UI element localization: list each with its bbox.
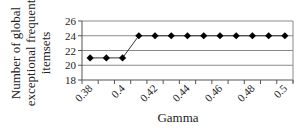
y-tick-label: 22: [65, 45, 76, 57]
y-tick-label: 24: [65, 30, 77, 42]
data-point-diamond: [135, 32, 142, 39]
y-tick-label: 26: [65, 15, 77, 27]
data-point-diamond: [184, 32, 191, 39]
y-axis-label-line: itemsets: [38, 32, 53, 75]
y-axis-label: Number of globalexceptional frequentitem…: [8, 0, 53, 106]
x-tick-label: 0.48: [235, 82, 257, 104]
x-tick-label: 0.5: [271, 82, 290, 101]
x-tick-label: 0.44: [170, 82, 192, 104]
line-chart: Number of globalexceptional frequentitem…: [0, 0, 308, 130]
data-point-diamond: [265, 32, 272, 39]
data-point-diamond: [216, 32, 223, 39]
y-axis-ticks: 1820222426: [65, 15, 82, 86]
gridlines: [82, 21, 293, 65]
x-axis-label: Gamma: [157, 110, 198, 125]
data-point-diamond: [249, 32, 256, 39]
y-axis-label-line: Number of global: [8, 6, 23, 99]
data-point-diamond: [103, 54, 110, 61]
data-point-diamond: [151, 32, 158, 39]
data-point-diamond: [119, 54, 126, 61]
x-tick-label: 0.42: [137, 82, 159, 104]
y-tick-label: 18: [65, 74, 77, 86]
data-point-diamond: [281, 32, 288, 39]
y-tick-label: 20: [65, 59, 77, 71]
data-point-diamond: [168, 32, 175, 39]
x-tick-label: 0.46: [202, 82, 224, 104]
x-tick-label: 0.4: [109, 82, 128, 101]
data-series: [87, 32, 289, 61]
data-point-diamond: [87, 54, 94, 61]
y-axis-label-line: exceptional frequent: [23, 0, 38, 106]
plot-frame: [82, 21, 293, 83]
x-axis-ticks: 0.380.40.420.440.460.480.5: [72, 80, 293, 104]
data-point-diamond: [200, 32, 207, 39]
data-point-diamond: [233, 32, 240, 39]
